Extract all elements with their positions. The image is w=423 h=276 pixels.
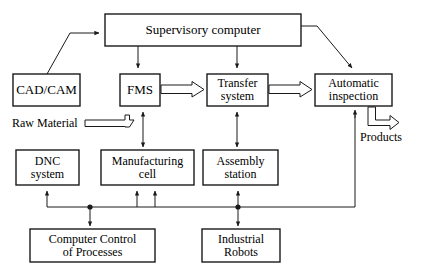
flow-raw-material-to-fms	[85, 115, 134, 127]
node-box-fms	[120, 74, 160, 106]
free-label-raw-material: Raw Material	[12, 116, 78, 131]
node-box-robots	[202, 229, 280, 262]
node-box-inspection	[315, 74, 392, 106]
junction-dot-robots	[235, 204, 240, 209]
node-box-transfer	[207, 74, 268, 106]
link-cadcam-to-supervisory	[47, 33, 99, 74]
node-boxes	[13, 14, 392, 262]
free-label-products: Products	[360, 130, 402, 145]
node-box-cadcam	[13, 74, 80, 106]
node-box-mfgcell	[101, 150, 194, 185]
flow-fms-to-transfer	[161, 82, 204, 98]
node-box-supervisory	[105, 14, 301, 46]
node-box-dnc	[16, 150, 79, 185]
node-box-ccp	[30, 229, 155, 262]
junction-dot-ccp	[87, 204, 92, 209]
flow-inspection-to-products	[368, 107, 399, 130]
flow-transfer-to-inspection	[269, 82, 312, 98]
diagram-canvas: Supervisory computerCAD/CAMFMSTransfer s…	[0, 0, 423, 276]
node-box-assembly	[203, 150, 278, 185]
link-supervisory-to-inspection	[301, 26, 352, 68]
